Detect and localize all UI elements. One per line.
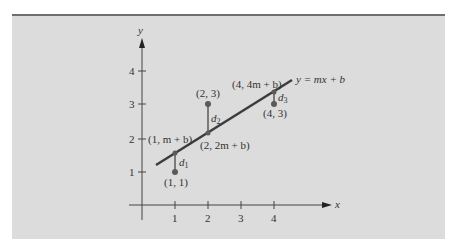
svg-text:3: 3: [238, 212, 244, 224]
line-equation-label: y = mx + b: [295, 73, 346, 85]
label-point-4-3: (4, 3): [263, 107, 287, 120]
svg-text:1: 1: [129, 166, 135, 178]
svg-text:4: 4: [129, 65, 135, 77]
y-ticks: 1 2 3 4: [129, 65, 146, 178]
label-line-point-1: (1, m + b): [148, 133, 192, 146]
svg-text:1: 1: [172, 212, 178, 224]
svg-text:2: 2: [129, 133, 135, 145]
y-axis-arrow-icon: [139, 38, 145, 48]
label-point-2-3: (2, 3): [196, 87, 220, 100]
data-point-2-3: [205, 101, 211, 107]
x-axis-label: x: [334, 198, 340, 210]
line-point-1: [173, 151, 178, 156]
y-axis-label: y: [137, 24, 143, 36]
svg-text:2: 2: [205, 212, 211, 224]
data-point-1-1: [172, 169, 178, 175]
label-line-point-4: (4, 4m + b): [232, 78, 282, 91]
x-ticks: 1 2 3 4: [172, 201, 277, 224]
least-squares-diagram: x y 1 2 3 4 1 2 3 4 y = mx + b (1, 1) (2…: [0, 0, 455, 249]
line-point-4: [272, 90, 277, 95]
label-line-point-2: (2, 2m + b): [200, 139, 250, 152]
label-d2: d2: [211, 112, 221, 126]
label-point-1-1: (1, 1): [164, 176, 188, 189]
x-axis-arrow-icon: [322, 202, 332, 208]
svg-text:3: 3: [129, 98, 135, 110]
label-d3: d3: [278, 91, 288, 105]
svg-text:4: 4: [271, 212, 277, 224]
label-d1: d1: [179, 156, 189, 170]
line-point-2: [206, 131, 211, 136]
